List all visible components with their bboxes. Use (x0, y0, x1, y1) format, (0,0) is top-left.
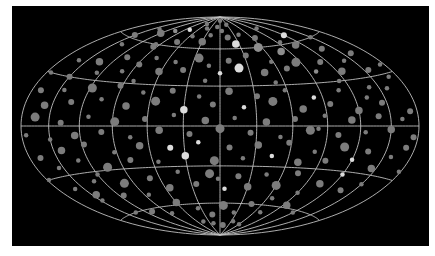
star-dot (389, 155, 394, 160)
star-dot (142, 116, 148, 122)
star-dot (122, 102, 130, 110)
star-dot (378, 62, 383, 67)
star-dot (155, 126, 163, 134)
star-dot (348, 50, 354, 56)
star-dot (319, 46, 325, 52)
star-dot (255, 141, 263, 149)
star-dot (175, 169, 180, 174)
star-dot (281, 32, 287, 38)
star-dot (243, 53, 249, 59)
star-dot (411, 134, 417, 140)
star-dot (186, 131, 192, 137)
star-dot (95, 71, 100, 76)
star-dot (359, 182, 364, 187)
star-dot (99, 97, 104, 102)
star-dot (244, 183, 252, 191)
star-dot (188, 28, 193, 33)
star-dot (397, 169, 402, 174)
star-dot (270, 154, 275, 159)
star-dot (308, 35, 313, 40)
star-dot (235, 64, 244, 73)
star-dot (312, 149, 317, 154)
star-dot (232, 40, 240, 48)
star-dot (173, 199, 181, 207)
star-dot (88, 83, 97, 92)
star-dot (180, 67, 186, 73)
star-dot (24, 133, 29, 138)
star-dot (117, 83, 123, 89)
star-dot (197, 94, 202, 99)
star-dot (209, 212, 215, 218)
star-dot (367, 85, 372, 90)
star-dot (190, 34, 195, 39)
star-dot (201, 219, 206, 224)
star-dot (226, 58, 232, 64)
star-dot (208, 33, 213, 38)
star-dot (128, 135, 133, 140)
star-dot (340, 172, 345, 177)
star-dot (294, 159, 302, 167)
star-dot (365, 67, 371, 73)
star-dot (196, 140, 201, 145)
star-dot (147, 193, 152, 198)
star-dot (210, 102, 216, 108)
star-dot (252, 35, 258, 41)
star-dot (155, 68, 163, 76)
star-dot (292, 41, 300, 49)
star-dot (299, 105, 307, 113)
star-dot (270, 196, 275, 201)
star-dot (205, 26, 210, 31)
star-dot (242, 105, 247, 110)
star-dot (218, 71, 223, 76)
star-dot (95, 172, 100, 177)
star-dot (268, 97, 277, 106)
star-dot (120, 179, 129, 188)
star-dot (224, 22, 229, 27)
star-dot (132, 32, 138, 38)
star-dot (41, 101, 49, 109)
star-dot (222, 186, 227, 191)
star-dot (283, 88, 288, 93)
star-dot (337, 79, 342, 84)
star-dot (220, 222, 226, 228)
star-dot (37, 155, 43, 161)
star-dot (323, 114, 328, 119)
star-dot (73, 187, 78, 192)
star-dot (110, 117, 119, 126)
star-dot (98, 129, 104, 135)
star-dot (218, 19, 223, 24)
star-dot (385, 86, 390, 91)
star-dot (151, 97, 160, 106)
star-dot (327, 101, 333, 107)
star-dot (277, 48, 285, 56)
star-dot (348, 116, 356, 124)
star-dot (103, 163, 112, 172)
star-dot (195, 54, 204, 63)
star-dot (368, 165, 376, 173)
star-dot (314, 69, 319, 74)
star-dot (136, 142, 144, 150)
star-dot (350, 158, 355, 163)
star-dot (199, 38, 207, 46)
star-dot (340, 143, 349, 152)
star-dot (335, 132, 341, 138)
star-dot (235, 173, 241, 179)
star-dot (216, 176, 221, 181)
star-dot (81, 141, 87, 147)
star-dot (241, 156, 246, 161)
star-dot (284, 66, 290, 72)
star-dot (215, 25, 220, 30)
star-dot (342, 59, 347, 64)
star-dot (120, 42, 125, 47)
star-dot (180, 106, 188, 114)
star-dot (57, 166, 62, 171)
star-dot (254, 43, 263, 52)
star-dot (211, 221, 216, 226)
star-dot (166, 184, 174, 192)
star-dot (236, 32, 241, 37)
star-dot (278, 40, 283, 45)
star-dot (170, 211, 175, 216)
star-dot (269, 59, 274, 64)
star-dot (167, 145, 173, 151)
star-dot (49, 70, 54, 75)
